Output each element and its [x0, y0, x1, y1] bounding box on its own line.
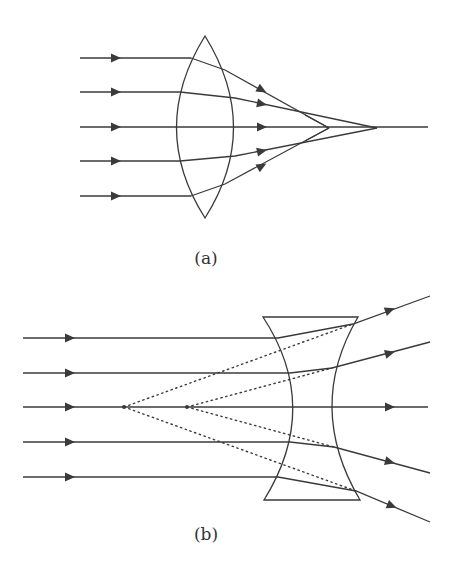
panel-a-label: (a)	[194, 248, 217, 268]
arrow-icon	[255, 84, 268, 97]
arrow-icon	[385, 403, 395, 412]
focal-point-paraxial	[185, 405, 189, 409]
refracted-rays-a	[175, 58, 428, 196]
arrow-icon	[386, 500, 399, 512]
incident-rays-a	[80, 54, 191, 201]
panel-a-convex-lens: (a)	[80, 36, 428, 268]
arrow-icon	[65, 334, 75, 343]
arrow-icon	[65, 369, 75, 378]
panel-b-label: (b)	[194, 524, 218, 544]
arrow-icon	[65, 403, 75, 412]
arrow-icon	[384, 456, 396, 467]
lens-diagram: (a)	[0, 0, 452, 572]
arrow-icon	[257, 123, 267, 132]
arrow-icon	[111, 192, 121, 201]
arrow-icon	[65, 438, 75, 447]
arrow-icon	[65, 473, 75, 482]
refracted-arrows-a	[255, 84, 268, 173]
arrow-icon	[111, 54, 121, 63]
arrow-icon	[111, 123, 121, 132]
arrow-icon	[384, 347, 396, 358]
concave-lens	[263, 317, 360, 500]
focal-point-marginal	[122, 405, 126, 409]
arrow-icon	[111, 157, 121, 166]
arrow-icon	[384, 304, 396, 316]
arrow-icon	[111, 88, 121, 97]
incident-rays-b	[23, 334, 428, 482]
arrow-icon	[256, 146, 268, 157]
panel-b-concave-lens: (b)	[23, 296, 430, 544]
